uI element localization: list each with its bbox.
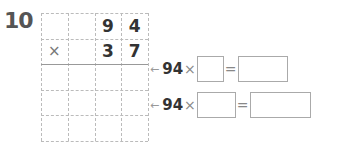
problem-number: 10 (4, 8, 33, 33)
arrow-left-icon: ← (150, 63, 159, 76)
equals-sign: = (225, 61, 237, 77)
product-answer-box[interactable] (250, 92, 311, 118)
product-answer-box[interactable] (238, 56, 288, 82)
grid-cell-digit: 7 (121, 39, 148, 65)
grid-cell-digit: 4 (121, 13, 148, 39)
factor-answer-box[interactable] (197, 92, 236, 118)
arrow-left-icon: ← (150, 99, 159, 112)
grid-cell-digit: 9 (95, 13, 122, 39)
times-sign: × (184, 97, 196, 113)
times-sign: × (41, 39, 68, 65)
equation-row-1: ← 94 × = (150, 56, 288, 82)
multiplicand: 94 (162, 96, 183, 114)
equals-sign: = (237, 97, 249, 113)
multiplicand: 94 (162, 60, 183, 78)
grid-cell (41, 13, 68, 39)
multiplication-grid: 9 4 × 3 7 (41, 13, 148, 141)
times-sign: × (184, 61, 196, 77)
equation-row-2: ← 94 × = (150, 92, 311, 118)
factor-answer-box[interactable] (197, 56, 224, 82)
grid-cell-digit: 3 (95, 39, 122, 65)
grid-cell (68, 13, 95, 39)
grid-cell (68, 39, 95, 65)
